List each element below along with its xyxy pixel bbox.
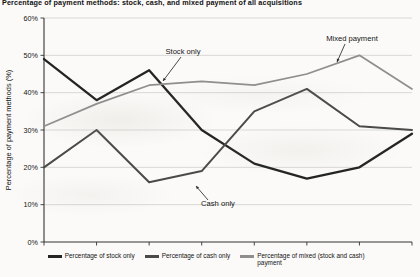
line-chart: 0%10%20%30%40%50%60%Percentage of paymen… xyxy=(0,10,420,247)
chart-legend: Percentage of stock onlyPercentage of ca… xyxy=(0,252,420,267)
series-line-mixed xyxy=(44,55,412,126)
y-axis-tick-label: 40% xyxy=(24,88,39,97)
legend-swatch-cash xyxy=(145,255,159,258)
figure-title: Percentage of payment methods: stock, ca… xyxy=(2,0,302,7)
annotation-mixed-payment-label: Mixed payment xyxy=(326,34,378,43)
y-axis-tick-label: 60% xyxy=(24,14,39,23)
legend-label-mixed: Percentage of mixed (stock and cash) pay… xyxy=(257,252,372,267)
y-axis-tick-label: 10% xyxy=(24,200,39,209)
legend-item-cash[interactable]: Percentage of cash only xyxy=(145,252,231,259)
y-axis-tick-label: 20% xyxy=(24,163,39,172)
legend-swatch-stock xyxy=(48,255,62,258)
y-axis-tick-label: 50% xyxy=(24,51,39,60)
annotation-stock-only-leader-line xyxy=(163,57,181,81)
y-axis-title: Percentage of payment methods (%) xyxy=(4,70,13,190)
series-line-stock xyxy=(44,59,412,178)
legend-label-cash: Percentage of cash only xyxy=(162,252,231,259)
legend-swatch-mixed xyxy=(240,255,254,258)
legend-item-stock[interactable]: Percentage of stock only xyxy=(48,252,135,259)
y-axis-tick-label: 0% xyxy=(28,238,39,247)
chart-plot-area: 0%10%20%30%40%50%60%Percentage of paymen… xyxy=(0,10,420,247)
legend-label-stock: Percentage of stock only xyxy=(65,252,135,259)
annotation-cash-only-label: Cash only xyxy=(201,199,235,208)
annotation-stock-only-label: Stock only xyxy=(165,47,200,56)
y-axis-tick-label: 30% xyxy=(24,126,39,135)
legend-item-mixed[interactable]: Percentage of mixed (stock and cash) pay… xyxy=(240,252,372,267)
